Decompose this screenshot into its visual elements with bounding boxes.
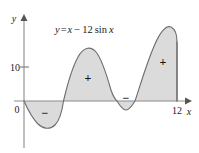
equation-equals: =	[61, 24, 67, 35]
equation-minus: −	[74, 24, 80, 35]
equation-coefficient: 12	[82, 24, 93, 35]
region-positive-2	[135, 27, 177, 101]
region-sign-positive-2: +	[160, 55, 167, 69]
y-tick-label-10: 10	[10, 62, 20, 73]
y-axis-arrow-icon	[21, 14, 28, 21]
x-end-label-12: 12	[172, 105, 182, 116]
equation-sin: sin	[95, 24, 108, 35]
math-figure: y x 0 10 12 y=x−12sinx − + − +	[0, 0, 199, 153]
origin-label: 0	[15, 104, 20, 115]
equation-y: y	[54, 24, 60, 35]
region-sign-negative-2: −	[123, 91, 130, 105]
region-sign-negative-1: −	[42, 106, 49, 120]
x-axis-arrow-icon	[185, 98, 192, 105]
equation-label: y=x−12sinx	[54, 24, 114, 35]
y-axis-label: y	[11, 13, 17, 24]
x-axis-label: x	[186, 106, 192, 117]
equation-x1: x	[67, 24, 73, 35]
region-sign-positive-1: +	[85, 71, 92, 85]
equation-x2: x	[108, 24, 114, 35]
plot-svg: y x 0 10 12 y=x−12sinx − + − +	[0, 0, 199, 153]
